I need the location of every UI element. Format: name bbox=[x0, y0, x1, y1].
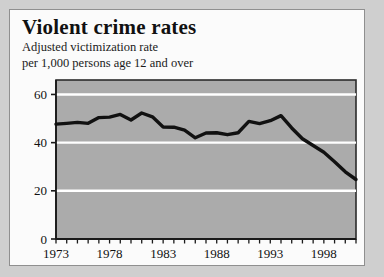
x-tick-label: 1983 bbox=[150, 246, 176, 261]
x-tick-label: 1998 bbox=[311, 246, 337, 261]
y-tick-label: 0 bbox=[41, 232, 48, 247]
x-tick-label: 1988 bbox=[204, 246, 230, 261]
figure-card: Violent crime rates Adjusted victimizati… bbox=[9, 9, 365, 266]
x-tick-label: 1973 bbox=[43, 246, 69, 261]
y-axis-labels: 0204060 bbox=[34, 87, 47, 247]
plot-area bbox=[56, 80, 356, 239]
line-chart: 0204060 197319781983198819931998 bbox=[10, 10, 366, 267]
x-tick-label: 1978 bbox=[97, 246, 123, 261]
y-tick-label: 40 bbox=[34, 135, 47, 150]
page-background: Violent crime rates Adjusted victimizati… bbox=[0, 0, 384, 277]
x-tick-label: 1993 bbox=[257, 246, 283, 261]
y-tick-label: 60 bbox=[34, 87, 47, 102]
x-axis-labels: 197319781983198819931998 bbox=[43, 246, 337, 261]
y-tick-label: 20 bbox=[34, 183, 47, 198]
